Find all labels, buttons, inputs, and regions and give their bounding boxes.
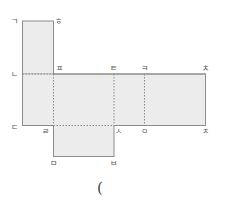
face-bottom bbox=[54, 126, 115, 157]
label-digeut: ㄷ bbox=[11, 123, 18, 132]
label-siot: ㅅ bbox=[115, 127, 122, 136]
face-top bbox=[23, 21, 54, 74]
face-strip bbox=[23, 74, 206, 126]
label-pieup: ㅍ bbox=[56, 64, 63, 73]
label-rieul: ㄹ bbox=[42, 127, 49, 136]
label-chieut-top: ㅊ bbox=[202, 64, 209, 73]
label-mieum: ㅁ bbox=[50, 159, 57, 168]
cube-net-diagram: ㄱ ㅎ ㄴ ㅍ ㅌ ㅋ ㅊ ㄷ ㄹ ㅅ ㅇ ㅈ ㅁ ㅂ ( bbox=[0, 0, 228, 205]
label-nieun: ㄴ bbox=[11, 70, 18, 79]
answer-blank-paren: ( bbox=[97, 179, 103, 197]
label-bieup: ㅂ bbox=[110, 159, 117, 168]
label-giyeok: ㄱ bbox=[11, 17, 18, 26]
label-hieut: ㅎ bbox=[55, 17, 62, 26]
label-tieut: ㅌ bbox=[110, 64, 117, 73]
label-kieuk: ㅋ bbox=[141, 64, 148, 73]
label-jieut: ㅈ bbox=[202, 127, 209, 136]
label-ieung: ㅇ bbox=[141, 127, 148, 136]
